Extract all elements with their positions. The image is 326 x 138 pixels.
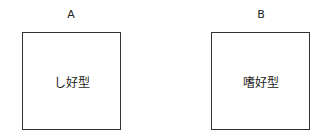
panel-b-box: 嗜好型 bbox=[211, 32, 310, 130]
panel-b-label: B bbox=[251, 8, 271, 21]
panel-a-box: し好型 bbox=[22, 32, 121, 130]
panel-a-label: A bbox=[61, 8, 81, 21]
panel-a-text: し好型 bbox=[54, 73, 90, 90]
panel-b-text: 嗜好型 bbox=[243, 73, 279, 90]
